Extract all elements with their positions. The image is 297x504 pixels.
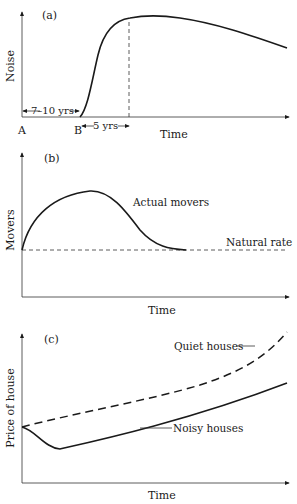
- y-axis-label: Movers: [4, 209, 17, 251]
- figure: (a) Noise Time A B 7–10 yrs 5 yrs (b) Mo…: [0, 0, 297, 504]
- span-5-label: 5 yrs: [93, 120, 118, 131]
- natural-rate-label: Natural rate: [226, 236, 292, 248]
- panel-a: (a) Noise Time A B 7–10 yrs 5 yrs: [4, 9, 289, 141]
- panel-label: (b): [44, 152, 60, 165]
- point-a-label: A: [17, 124, 27, 137]
- x-axis-label: Time: [160, 128, 188, 141]
- actual-movers-label: Actual movers: [132, 196, 209, 208]
- span-7-10-label: 7–10 yrs: [31, 105, 74, 116]
- noise-curve: [80, 16, 287, 117]
- panel-c: (c) Price of house Time Quiet houses Noi…: [4, 332, 289, 502]
- noisy-houses-label: Noisy houses: [173, 422, 243, 434]
- quiet-houses-label: Quiet houses: [174, 340, 243, 352]
- panel-label: (a): [42, 9, 57, 22]
- panel-label: (c): [44, 333, 59, 346]
- panel-b: (b) Movers Time Natural rate Actual move…: [4, 152, 292, 317]
- y-axis-label: Price of house: [4, 368, 17, 447]
- x-axis-label: Time: [148, 304, 176, 317]
- x-axis-label: Time: [148, 489, 176, 502]
- y-axis-label: Noise: [4, 50, 17, 82]
- noisy-houses-curve: [22, 383, 287, 449]
- point-b-label: B: [74, 124, 82, 137]
